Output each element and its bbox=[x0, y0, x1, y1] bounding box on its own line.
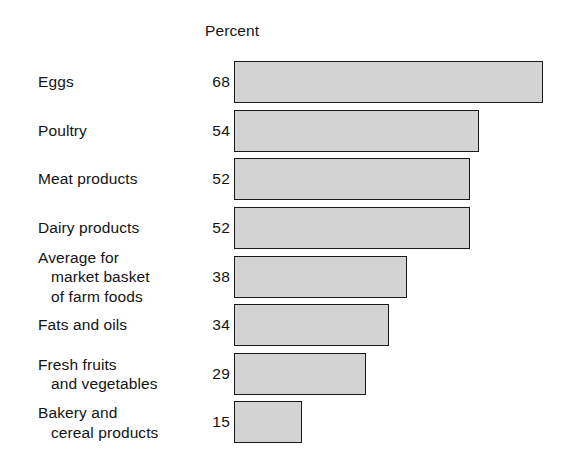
bar-row: Poultry54 bbox=[0, 107, 566, 156]
bar-category-label: Eggs bbox=[38, 73, 198, 93]
bar-category-label: Fresh fruitsand vegetables bbox=[38, 354, 198, 393]
bar-category-label-line: Dairy products bbox=[38, 218, 198, 238]
bar-value-label: 15 bbox=[186, 413, 230, 431]
bar bbox=[234, 353, 366, 395]
bar-chart: Percent Eggs68Poultry54Meat products52Da… bbox=[0, 0, 566, 454]
bar-category-label-line: Poultry bbox=[38, 121, 198, 141]
bar-track bbox=[234, 353, 366, 395]
bar bbox=[234, 110, 479, 152]
bar-value-label: 54 bbox=[186, 122, 230, 140]
bar-row: Bakery andcereal products15 bbox=[0, 398, 566, 447]
bar-category-label-line: Fats and oils bbox=[38, 316, 198, 336]
bar-value-label: 29 bbox=[186, 365, 230, 383]
bar-rows: Eggs68Poultry54Meat products52Dairy prod… bbox=[0, 58, 566, 447]
bar bbox=[234, 256, 407, 298]
bar-row: Average formarket basketof farm foods38 bbox=[0, 252, 566, 301]
bar-category-label-line: market basket bbox=[38, 267, 198, 287]
bar-row: Fresh fruitsand vegetables29 bbox=[0, 350, 566, 399]
bar-category-label-line: Bakery and bbox=[38, 403, 198, 423]
bar-row: Meat products52 bbox=[0, 155, 566, 204]
bar-value-label: 52 bbox=[186, 219, 230, 237]
bar-category-label-line: Meat products bbox=[38, 170, 198, 190]
bar-track bbox=[234, 110, 479, 152]
value-axis-header: Percent bbox=[205, 22, 259, 40]
bar-category-label-line: Fresh fruits bbox=[38, 354, 198, 374]
bar bbox=[234, 401, 302, 443]
bar-category-label: Dairy products bbox=[38, 218, 198, 238]
bar-category-label: Average formarket basketof farm foods bbox=[38, 247, 198, 306]
bar-category-label: Poultry bbox=[38, 121, 198, 141]
bar-category-label: Meat products bbox=[38, 170, 198, 190]
bar-track bbox=[234, 256, 407, 298]
bar-value-label: 38 bbox=[186, 268, 230, 286]
bar-row: Fats and oils34 bbox=[0, 301, 566, 350]
bar-category-label-line: and vegetables bbox=[38, 374, 198, 394]
bar-track bbox=[234, 304, 389, 346]
bar bbox=[234, 304, 389, 346]
bar-row: Eggs68 bbox=[0, 58, 566, 107]
bar-category-label: Bakery andcereal products bbox=[38, 403, 198, 442]
bar-track bbox=[234, 61, 543, 103]
bar-track bbox=[234, 158, 470, 200]
bar-category-label-line: Eggs bbox=[38, 73, 198, 93]
bar-value-label: 52 bbox=[186, 170, 230, 188]
bar bbox=[234, 207, 470, 249]
bar-track bbox=[234, 207, 470, 249]
bar-value-label: 68 bbox=[186, 73, 230, 91]
bar-value-label: 34 bbox=[186, 316, 230, 334]
bar bbox=[234, 158, 470, 200]
bar-category-label-line: cereal products bbox=[38, 422, 198, 442]
bar-row: Dairy products52 bbox=[0, 204, 566, 253]
bar-category-label: Fats and oils bbox=[38, 316, 198, 336]
bar-track bbox=[234, 401, 302, 443]
bar bbox=[234, 61, 543, 103]
bar-category-label-line: Average for bbox=[38, 247, 198, 267]
